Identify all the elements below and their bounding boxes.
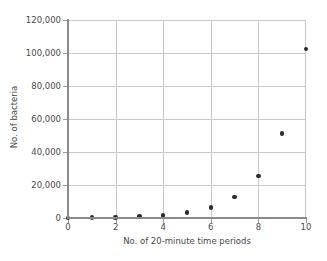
x-axis-title: No. of 20-minute time periods xyxy=(68,236,306,246)
gridline-vertical xyxy=(163,20,164,218)
y-axis-tick-label: 80,000 xyxy=(31,82,61,91)
bacteria-growth-scatter-chart: 020,00040,00060,00080,000100,000120,000 … xyxy=(0,0,327,261)
x-axis-tick-label: 4 xyxy=(143,222,183,232)
data-point xyxy=(185,210,190,215)
y-axis-line xyxy=(67,19,69,219)
data-point xyxy=(304,47,309,52)
y-axis-tick-label: 40,000 xyxy=(31,148,61,157)
gridline-horizontal xyxy=(68,119,306,120)
y-axis-tick-label: 20,000 xyxy=(31,181,61,190)
data-point xyxy=(209,205,214,210)
x-axis-tick-label: 6 xyxy=(191,222,231,232)
gridline-vertical xyxy=(116,20,117,218)
x-axis-line xyxy=(67,217,307,219)
gridline-horizontal xyxy=(68,185,306,186)
gridline-horizontal xyxy=(68,53,306,54)
gridline-vertical xyxy=(211,20,212,218)
gridline-vertical xyxy=(258,20,259,218)
data-point xyxy=(256,174,261,179)
y-axis-tick-label: 120,000 xyxy=(26,16,61,25)
y-axis-title: No. of bacteria xyxy=(9,67,19,167)
data-point xyxy=(232,195,237,200)
x-axis-tick-label: 10 xyxy=(286,222,326,232)
x-axis-tick-label: 8 xyxy=(238,222,278,232)
gridline-horizontal xyxy=(68,20,306,21)
plot-area xyxy=(68,20,306,218)
y-axis-tick-label: 100,000 xyxy=(26,49,61,58)
x-axis-tick-label: 2 xyxy=(96,222,136,232)
x-axis-tick-label: 0 xyxy=(48,222,88,232)
data-point xyxy=(280,131,285,136)
gridline-horizontal xyxy=(68,152,306,153)
gridline-horizontal xyxy=(68,86,306,87)
y-axis-tick-label: 60,000 xyxy=(31,115,61,124)
